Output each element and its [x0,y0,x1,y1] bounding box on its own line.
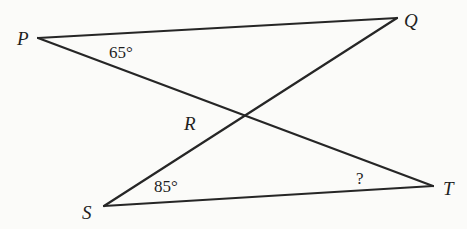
angle-label-p: 65° [109,44,133,61]
angle-label-s: 85° [154,178,178,195]
segment-pt [38,38,433,186]
point-label-q: Q [404,11,418,30]
point-label-p: P [17,29,29,48]
figure-lines [0,0,467,229]
point-label-r: R [184,114,196,133]
geometry-figure: P Q R S T 65° 85° ? [0,0,467,229]
angle-label-t-unknown: ? [356,170,364,187]
segment-qs [104,18,397,206]
point-label-t: T [443,179,454,198]
point-label-s: S [82,203,92,222]
segment-pq [38,18,397,38]
